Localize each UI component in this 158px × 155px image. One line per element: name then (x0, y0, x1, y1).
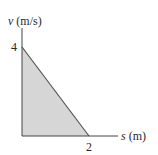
y-axis-label: v (m/s) (8, 14, 42, 28)
x-axis-unit: (m) (126, 129, 146, 143)
y-axis-unit: (m/s) (13, 14, 41, 28)
diagram-canvas: v (m/s) s (m) 4 2 (0, 0, 158, 155)
y-tick-label: 4 (11, 40, 17, 54)
x-axis-label: s (m) (121, 129, 146, 143)
x-tick-label: 2 (86, 140, 92, 154)
velocity-position-diagram: v (m/s) s (m) 4 2 (0, 0, 158, 155)
